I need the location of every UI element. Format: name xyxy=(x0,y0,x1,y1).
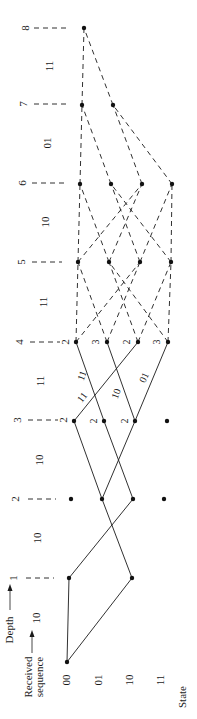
depth-label-6: 6 xyxy=(16,180,28,186)
node-d1-10 xyxy=(130,576,134,580)
received-symbol-6: 10 xyxy=(39,216,51,228)
state-labels: 00 01 10 11 State xyxy=(60,674,188,708)
node-d5-10 xyxy=(138,260,142,264)
node-d6-00 xyxy=(78,182,82,186)
node-d5-01 xyxy=(107,260,111,264)
branch-labels: 11 11 10 01 xyxy=(75,369,151,404)
state-label-10: 10 xyxy=(123,674,135,686)
node-d2-01 xyxy=(100,497,104,501)
depth-label-3: 3 xyxy=(11,417,23,423)
node-d3-10 xyxy=(133,419,137,423)
received-symbol-2: 10 xyxy=(31,532,43,544)
branch-label-d: 01 xyxy=(137,371,151,385)
received-axis-label-line2: sequence xyxy=(33,657,45,697)
received-symbol-1: 10 xyxy=(30,612,42,624)
depth-label-2: 2 xyxy=(9,496,21,502)
metric-d4-01: 3 xyxy=(90,340,101,345)
node-d5-00 xyxy=(76,260,80,264)
node-d3-00 xyxy=(72,419,76,423)
received-arrowhead-icon xyxy=(30,630,35,637)
node-d4-00 xyxy=(74,340,78,344)
node-d6-10 xyxy=(140,182,144,186)
node-d3-11 xyxy=(165,419,169,423)
trellis-diagram: 8 7 6 5 4 3 2 1 2 2 10 10 10 11 11 10 01… xyxy=(0,0,197,719)
depth-labels: 8 7 6 5 4 3 2 1 xyxy=(7,25,31,581)
node-d7-00 xyxy=(80,103,84,107)
tick-metric-depth3: 2 xyxy=(57,417,69,423)
node-d1-00 xyxy=(67,576,71,580)
depth-arrowhead-icon xyxy=(8,584,13,591)
metric-d4-11: 3 xyxy=(151,340,162,345)
state-label-11: 11 xyxy=(154,675,166,686)
node-d2-10 xyxy=(131,497,135,501)
tick-metric-depth4: 2 xyxy=(59,339,71,345)
state-label-01: 01 xyxy=(92,675,104,686)
node-d7-01 xyxy=(111,103,115,107)
axis-annotations: Depth Received sequence xyxy=(3,584,45,697)
branch-label-b: 11 xyxy=(75,390,90,404)
node-d2-11 xyxy=(162,497,166,501)
node-d0-00 xyxy=(65,660,69,664)
received-symbol-8: 11 xyxy=(43,61,55,72)
tick-metrics: 2 2 xyxy=(57,339,71,423)
depth-label-8: 8 xyxy=(19,25,31,31)
state-label-00: 00 xyxy=(60,674,72,686)
depth-label-1: 1 xyxy=(7,575,19,581)
node-d6-11 xyxy=(170,182,174,186)
node-d5-11 xyxy=(169,260,173,264)
node-d4-10 xyxy=(136,340,140,344)
depth-label-5: 5 xyxy=(15,259,27,265)
depth-label-4: 4 xyxy=(13,339,25,345)
received-symbol-5: 11 xyxy=(37,297,49,308)
node-d4-01 xyxy=(105,340,109,344)
metric-d3-01: 2 xyxy=(88,419,99,424)
received-symbol-3: 10 xyxy=(33,454,45,466)
node-d6-01 xyxy=(109,182,113,186)
dashed-branches xyxy=(76,28,172,342)
node-d3-01 xyxy=(102,419,106,423)
node-d2-00 xyxy=(69,497,73,501)
depth-axis-label: Depth xyxy=(3,616,15,643)
depth-label-7: 7 xyxy=(17,101,29,107)
state-axis-label: State xyxy=(176,686,188,708)
metric-d4-10: 2 xyxy=(121,340,132,345)
received-symbol-7: 01 xyxy=(41,138,53,149)
received-symbol-4: 11 xyxy=(34,376,46,387)
node-d4-11 xyxy=(166,340,170,344)
metric-d3-10: 2 xyxy=(119,419,130,424)
branch-label-c: 10 xyxy=(109,387,123,400)
node-d8-00 xyxy=(82,26,86,30)
